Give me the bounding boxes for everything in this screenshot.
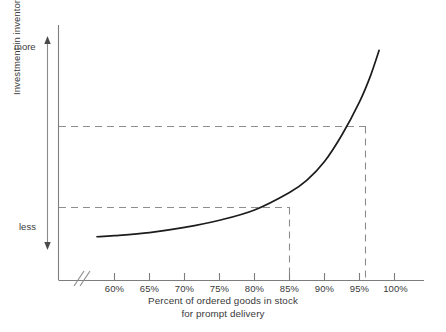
x-axis-ticks — [115, 273, 395, 280]
axis-break-icon — [74, 271, 90, 286]
x-tick-label-95: 95% — [350, 283, 369, 294]
x-axis-title-line-2: for prompt delivery — [58, 307, 388, 320]
x-axis-title-line-1: Percent of ordered goods in stock — [58, 294, 388, 307]
investment-curve — [97, 50, 379, 236]
x-tick-label-75: 75% — [210, 283, 229, 294]
y-axis-range-arrow — [44, 36, 50, 250]
x-tick-label-60: 60% — [105, 283, 124, 294]
x-tick-label-90: 90% — [315, 283, 334, 294]
x-axis-title: Percent of ordered goods in stock for pr… — [58, 294, 388, 320]
x-tick-label-85: 85% — [280, 283, 299, 294]
chart-container: 60% 65% 70% 75% 80% 85% 90% 95% 100% mor… — [0, 0, 446, 332]
x-tick-label-100: 100% — [383, 283, 408, 294]
x-tick-label-70: 70% — [175, 283, 194, 294]
reference-line-85 — [59, 208, 290, 280]
x-tick-label-65: 65% — [140, 283, 159, 294]
y-axis-title: Investment in inventory — [11, 0, 22, 95]
x-tick-label-80: 80% — [245, 283, 264, 294]
reference-line-95 — [59, 127, 366, 280]
y-axis-label-less: less — [19, 221, 36, 232]
